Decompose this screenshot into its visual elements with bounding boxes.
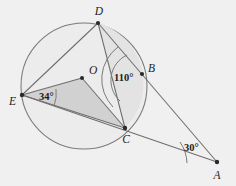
geometry-canvas: D O B E C A 34° 110° 30°	[0, 0, 236, 186]
angle-label-A: 30°	[184, 142, 199, 153]
point-label-E: E	[8, 95, 16, 107]
point-label-O: O	[89, 64, 98, 76]
vertex-dot-A	[215, 160, 219, 164]
angle-label-E: 34°	[39, 91, 54, 102]
point-label-C: C	[122, 133, 130, 145]
vertex-dot-C	[123, 126, 127, 130]
vertex-dot-B	[140, 72, 144, 76]
point-label-A: A	[212, 169, 221, 181]
vertex-dot-E	[20, 93, 24, 97]
angle-label-B: 110°	[114, 72, 133, 83]
geometry-figure: D O B E C A 34° 110° 30°	[0, 0, 236, 186]
vertex-dot-O	[80, 76, 84, 80]
vertex-dot-D	[96, 21, 100, 25]
point-label-B: B	[148, 62, 155, 74]
point-label-D: D	[94, 5, 104, 17]
